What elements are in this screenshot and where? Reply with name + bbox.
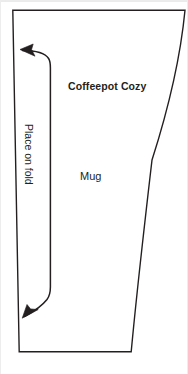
pattern-drawing <box>0 0 188 374</box>
image-frame <box>1 0 188 374</box>
pattern-part-label: Mug <box>80 171 101 182</box>
arrow-down-icon <box>22 305 38 319</box>
pattern-title-label: Coffeepot Cozy <box>68 81 146 92</box>
pattern-canvas: Coffeepot Cozy Mug Place on fold <box>0 0 188 374</box>
place-on-fold-label: Place on fold <box>24 124 35 185</box>
arrow-up-icon <box>20 44 35 56</box>
